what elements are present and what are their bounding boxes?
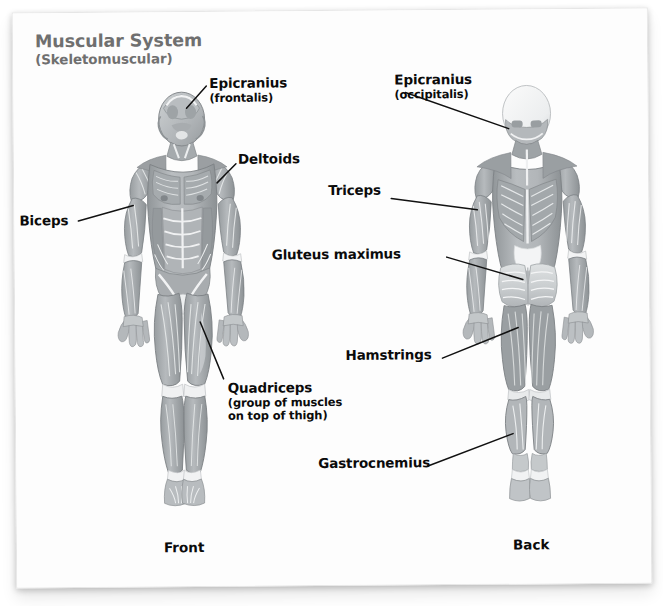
leader-gastrocnemius <box>427 434 513 467</box>
calf-right-front <box>184 396 208 473</box>
label-gluteus-maximus-main: Gluteus maximus <box>272 246 401 263</box>
label-biceps-main: Biceps <box>19 213 68 229</box>
label-gluteus-maximus[interactable]: Gluteus maximus <box>272 246 401 263</box>
muscular-system-diagram <box>13 9 651 588</box>
label-triceps-main: Triceps <box>328 183 381 199</box>
front-figure <box>116 92 250 507</box>
label-quadriceps-main: Quadriceps <box>228 380 342 397</box>
label-triceps[interactable]: Triceps <box>328 183 381 199</box>
gluteus-maximus-left <box>498 264 528 307</box>
back-foot-left <box>509 469 530 501</box>
leader-triceps <box>391 198 477 211</box>
label-quadriceps[interactable]: Quadriceps (group of muscles on top of t… <box>228 380 343 423</box>
label-hamstrings-main: Hamstrings <box>345 347 431 363</box>
label-gastrocnemius[interactable]: Gastrocnemius <box>318 455 430 472</box>
front-abdominals <box>162 207 203 274</box>
front-hand-left <box>118 315 150 347</box>
label-deltoids[interactable]: Deltoids <box>238 151 300 167</box>
front-head <box>158 92 205 146</box>
label-deltoids-main: Deltoids <box>238 151 300 167</box>
label-epicranius-occipitalis-main: Epicranius <box>394 72 472 88</box>
back-head <box>502 85 550 144</box>
caption-front: Front <box>164 539 204 555</box>
label-epicranius-occipitalis-sub: (occipitalis) <box>394 88 472 102</box>
caption-back: Back <box>513 536 550 552</box>
label-epicranius-occipitalis[interactable]: Epicranius (occipitalis) <box>394 72 472 102</box>
back-foot-right <box>529 469 550 501</box>
front-foot-right <box>182 470 205 506</box>
triceps-left <box>469 195 491 254</box>
label-epicranius-frontalis-main: Epicranius <box>209 75 287 91</box>
label-biceps[interactable]: Biceps <box>19 213 68 229</box>
label-quadriceps-sub2: on top of thigh) <box>228 409 342 423</box>
back-hand-right <box>562 312 594 344</box>
calf-left-front <box>160 396 184 473</box>
label-gastrocnemius-main: Gastrocnemius <box>318 455 430 472</box>
label-hamstrings[interactable]: Hamstrings <box>345 347 431 363</box>
forearm-right <box>224 260 245 318</box>
page-surface: Muscular System (Skeletomuscular) Epicra… <box>13 9 651 588</box>
diagram-page-card: Muscular System (Skeletomuscular) Epicra… <box>12 8 653 589</box>
back-figure <box>461 85 595 502</box>
gluteus-maximus-right <box>528 264 558 307</box>
back-forearm-right <box>569 257 590 315</box>
front-hand-right <box>217 314 249 346</box>
label-epicranius-frontalis[interactable]: Epicranius (frontalis) <box>209 75 287 105</box>
label-epicranius-frontalis-sub: (frontalis) <box>209 91 287 105</box>
forearm-left <box>122 260 143 318</box>
